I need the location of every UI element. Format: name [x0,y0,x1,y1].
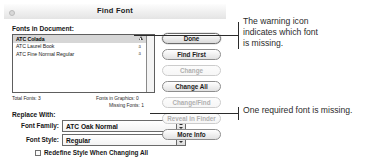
font-glyph-icon: a [138,43,144,49]
font-list-rows: ATC Colada ATC Laurel Book a ATC Fine No… [13,35,147,92]
find-first-button[interactable]: Find First [162,49,221,60]
font-name: ATC Colada [16,36,138,42]
fonts-in-graphics-status: Fonts in Graphics: 0 [96,96,139,101]
font-list-item[interactable]: ATC Colada [13,35,147,43]
change-find-button: Change/Find [162,97,221,108]
warning-triangle-icon [138,36,144,42]
callout-leader-line [150,113,238,114]
dialog-body: Fonts in Document: ATC Colada ATC Laurel… [4,19,226,162]
font-list-item[interactable]: ATC Laurel Book a [13,43,147,51]
font-style-value: Regular [66,137,91,144]
font-name: ATC Laurel Book [16,43,138,49]
callout-leader-line [238,107,239,120]
font-family-value: ATC Oak Normal [66,123,118,130]
font-name: ATC Fine Normal Regular [16,51,138,57]
callout-leader-line [134,35,238,36]
find-font-dialog: Find Font Fonts in Document: ATC Colada … [4,2,226,162]
more-info-button[interactable]: More Info [162,129,221,140]
callout-leader-line [238,22,239,49]
reveal-in-finder-button: Reveal in Finder [162,113,221,124]
annotation-warning-icon: The warning icon indicates which font is… [243,16,318,49]
missing-fonts-status: Missing Fonts: 1 [109,103,144,108]
font-style-label: Font Style: [26,136,59,143]
dialog-titlebar[interactable]: Find Font [4,4,226,20]
checkbox-icon[interactable] [35,150,41,156]
font-family-label: Font Family: [21,122,59,129]
annotation-missing-font: One required font is missing. [243,105,352,116]
replace-with-label: Replace With: [12,111,56,118]
redefine-style-label: Redefine Style When Changing All [44,149,148,156]
font-glyph-icon: a [138,51,144,57]
font-list[interactable]: ATC Colada ATC Laurel Book a ATC Fine No… [12,34,155,93]
font-list-item[interactable]: ATC Fine Normal Regular a [13,50,147,58]
change-button: Change [162,65,221,76]
dialog-title: Find Font [4,6,226,15]
redefine-style-checkbox-row[interactable]: Redefine Style When Changing All [35,149,148,156]
change-all-button[interactable]: Change All [162,81,221,92]
total-fonts-status: Total Fonts: 3 [12,96,41,101]
font-list-scrollbar[interactable] [146,35,154,92]
fonts-in-document-label: Fonts in Document: [12,25,74,32]
